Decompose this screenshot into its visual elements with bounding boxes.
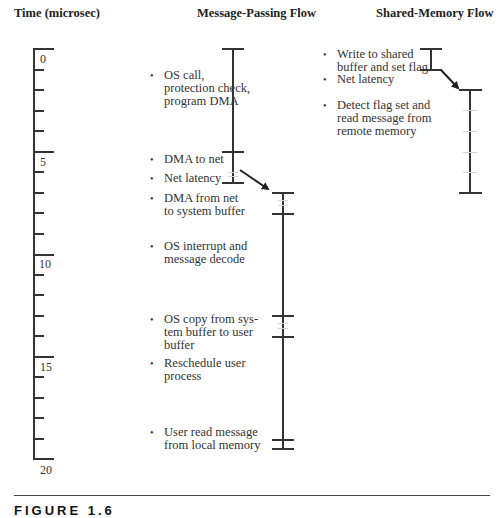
sm-net-latency-arrow (441, 70, 458, 88)
sm-step-detect-flag: • Detect flag set and read message from … (337, 99, 431, 138)
mp-net-latency-arrow (240, 170, 268, 189)
bullet-icon: • (323, 99, 327, 112)
bullet-icon: • (323, 48, 327, 61)
bullet-icon: • (150, 426, 154, 439)
bullet-icon: • (150, 172, 154, 185)
mp-step-reschedule: • Reschedule user process (164, 357, 246, 383)
sm-step-net-latency: • Net latency (337, 73, 394, 86)
mp-step-dma-from-net: • DMA from net to system buffer (164, 192, 245, 218)
caption-divider (14, 495, 490, 496)
bullet-icon: • (150, 313, 154, 326)
bullet-icon: • (323, 73, 327, 86)
bullet-icon: • (150, 69, 154, 82)
bullet-icon: • (150, 192, 154, 205)
mp-step-dma-to-net: • DMA to net (164, 153, 224, 166)
mp-step-os-copy: • OS copy from sys- tem buffer to user b… (164, 313, 258, 352)
mp-step-user-read: • User read message from local memory (164, 426, 261, 452)
mp-step-os-interrupt: • OS interrupt and message decode (164, 240, 247, 266)
sm-step-write: • Write to shared buffer and set flag (337, 48, 428, 74)
mp-step-net-latency: • Net latency (164, 172, 221, 185)
bullet-icon: • (150, 357, 154, 370)
mp-step-os-call: • OS call, protection check, program DMA (164, 69, 250, 108)
bullet-icon: • (150, 153, 154, 166)
bullet-icon: • (150, 240, 154, 253)
figure-caption: FIGURE 1.6 (14, 503, 115, 518)
